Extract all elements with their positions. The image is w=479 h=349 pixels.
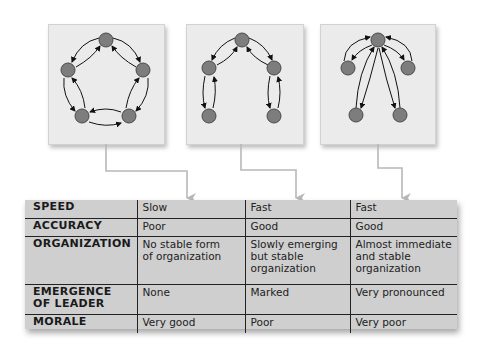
cell-circle: Very good	[137, 315, 245, 334]
row-label: SPEED	[25, 200, 137, 219]
table-row-morale: MORALE Very good Poor Very poor	[25, 315, 457, 334]
cell-wheel: Almost immediate and stable organization	[350, 237, 457, 285]
cell-wheel: Good	[350, 219, 457, 237]
cell-wheel: Very pronounced	[350, 285, 457, 315]
cell-wheel: Very poor	[350, 315, 457, 334]
cell-chain: Poor	[245, 315, 350, 334]
cell-circle: Poor	[137, 219, 245, 237]
row-label: EMERGENCE OF LEADER	[25, 285, 137, 315]
table-row-accuracy: ACCURACY Poor Good Good	[25, 219, 457, 237]
cell-chain: Slowly emerging but stable organization	[245, 237, 350, 285]
wheel-network-edges	[344, 37, 412, 108]
wheel-network-nodes	[341, 33, 415, 122]
connector-lines	[106, 144, 402, 198]
table-row-speed: SPEED Slow Fast Fast	[25, 200, 457, 219]
cell-wheel: Fast	[350, 200, 457, 219]
cell-chain: Good	[245, 219, 350, 237]
cell-chain: Fast	[245, 200, 350, 219]
table-row-organization: ORGANIZATION No stable form of organizat…	[25, 237, 457, 285]
row-label: MORALE	[25, 315, 137, 334]
cell-circle: Slow	[137, 200, 245, 219]
row-label: ORGANIZATION	[25, 237, 137, 285]
row-label: ACCURACY	[25, 219, 137, 237]
cell-chain: Marked	[245, 285, 350, 315]
cell-circle: None	[137, 285, 245, 315]
cell-circle: No stable form of organization	[137, 237, 245, 285]
connector-chain	[241, 144, 296, 198]
table-row-emergence-of-leader: EMERGENCE OF LEADER None Marked Very pro…	[25, 285, 457, 315]
connector-circle	[106, 144, 187, 198]
comparison-table: SPEED Slow Fast Fast ACCURACY Poor Good …	[25, 200, 457, 329]
connector-wheel	[378, 144, 402, 198]
